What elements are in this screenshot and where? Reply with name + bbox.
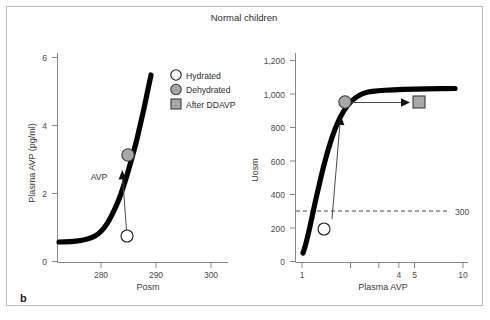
right-y-ticklabel-1000: 1,000 bbox=[264, 90, 286, 100]
left-panel-x-ticks: 280 290 300 bbox=[94, 263, 218, 281]
panel-letter-label: b bbox=[20, 292, 27, 304]
legend-label-hydrated: Hydrated bbox=[186, 71, 221, 81]
legend-label-dehydrated: Dehydrated bbox=[186, 85, 231, 95]
legend-marker-dehydrated-icon bbox=[171, 84, 181, 94]
right-panel-horizontal-arrow bbox=[352, 98, 410, 106]
right-y-ticklabel-600: 600 bbox=[271, 157, 285, 167]
right-x-ticklabel-1: 1 bbox=[300, 270, 305, 280]
right-panel-point-dehydrated bbox=[339, 96, 351, 108]
left-x-ticklabel-300: 300 bbox=[204, 270, 218, 280]
legend-marker-hydrated-icon bbox=[171, 70, 181, 80]
left-y-ticklabel-0: 0 bbox=[42, 257, 47, 267]
figure-title: Normal children bbox=[211, 12, 278, 23]
left-panel-point-hydrated bbox=[121, 230, 133, 242]
right-x-ticklabel-5: 5 bbox=[412, 270, 417, 280]
left-panel-avp-annotation: AVP bbox=[91, 172, 108, 182]
right-panel-reference-label-300: 300 bbox=[455, 207, 469, 217]
right-panel-y-axis-label: Uosm bbox=[250, 158, 260, 182]
right-panel-horizontal-arrow-head bbox=[401, 98, 410, 106]
right-panel-point-after-ddavp bbox=[413, 96, 425, 108]
right-y-ticklabel-200: 200 bbox=[271, 224, 285, 234]
left-y-ticklabel-6: 6 bbox=[42, 53, 47, 63]
left-panel-avp-curve bbox=[59, 75, 151, 242]
right-panel-point-hydrated bbox=[318, 223, 330, 235]
right-y-ticklabel-400: 400 bbox=[271, 190, 285, 200]
legend-marker-after-ddavp-icon bbox=[171, 99, 181, 109]
legend-group: Hydrated Dehydrated After DDAVP bbox=[171, 70, 236, 110]
left-x-ticklabel-280: 280 bbox=[94, 270, 108, 280]
left-y-ticklabel-2: 2 bbox=[42, 189, 47, 199]
right-panel-y-ticks: 1,200 1,000 800 600 400 200 0 bbox=[264, 56, 296, 267]
left-panel-y-ticks: 6 4 2 0 bbox=[42, 53, 57, 267]
right-x-ticklabel-4: 4 bbox=[397, 270, 402, 280]
left-y-ticklabel-4: 4 bbox=[42, 121, 47, 131]
right-panel-x-ticks: 1 4 5 10 bbox=[300, 263, 468, 281]
left-panel-y-axis-label: Plasma AVP (pg/ml) bbox=[27, 123, 37, 203]
right-y-ticklabel-800: 800 bbox=[271, 123, 285, 133]
left-x-ticklabel-290: 290 bbox=[149, 270, 163, 280]
legend-label-after-ddavp: After DDAVP bbox=[186, 100, 236, 110]
left-panel-point-dehydrated bbox=[122, 149, 134, 161]
figure-root: Normal children b Plasma AVP (pg/ml) Pos… bbox=[0, 0, 490, 320]
right-panel-group: Uosm Plasma AVP 1,200 1,000 800 600 40 bbox=[250, 53, 469, 292]
right-y-ticklabel-1200: 1,200 bbox=[264, 56, 286, 66]
right-panel-x-axis-label: Plasma AVP bbox=[358, 282, 407, 292]
left-panel-x-axis-label: Posm bbox=[136, 282, 159, 292]
scientific-figure-svg: Normal children b Plasma AVP (pg/ml) Pos… bbox=[0, 0, 490, 320]
right-y-ticklabel-0: 0 bbox=[280, 257, 285, 267]
right-x-ticklabel-10: 10 bbox=[458, 270, 468, 280]
